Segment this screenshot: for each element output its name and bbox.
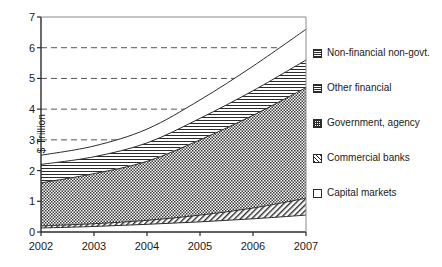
legend-label: Capital markets bbox=[327, 188, 396, 198]
legend-swatch-icon bbox=[313, 49, 322, 58]
legend-item[interactable]: Other financial bbox=[313, 83, 441, 93]
area-bands bbox=[41, 29, 306, 232]
legend-item[interactable]: Commercial banks bbox=[313, 153, 441, 163]
legend-label: Other financial bbox=[327, 83, 391, 93]
legend-item[interactable]: Government, agency bbox=[313, 118, 441, 128]
legend-swatch-icon bbox=[313, 84, 322, 93]
legend: Non-financial non-govt.Other financialGo… bbox=[313, 48, 441, 223]
legend-label: Government, agency bbox=[327, 118, 420, 128]
legend-swatch-icon bbox=[313, 154, 322, 163]
legend-item[interactable]: Non-financial non-govt. bbox=[313, 48, 441, 58]
legend-label: Commercial banks bbox=[327, 153, 410, 163]
legend-label: Non-financial non-govt. bbox=[327, 48, 430, 58]
legend-item[interactable]: Capital markets bbox=[313, 188, 441, 198]
legend-swatch-icon bbox=[313, 189, 322, 198]
legend-swatch-icon bbox=[313, 119, 322, 128]
chart-figure: $ Trillion 01234567 20022003200420052006… bbox=[0, 0, 442, 267]
